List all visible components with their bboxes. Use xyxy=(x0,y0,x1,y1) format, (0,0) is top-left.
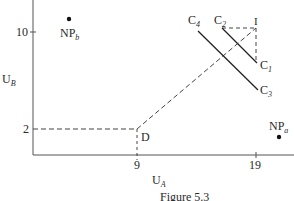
x-axis-label: UA xyxy=(152,174,166,191)
figure-caption: Figure 5.3 xyxy=(160,191,209,201)
line-c2-c1 xyxy=(222,28,257,63)
y-tick-label-10: 10 xyxy=(16,26,28,38)
point-label-d: D xyxy=(141,131,150,143)
point-label-np-b: NPb xyxy=(60,27,79,44)
curve-label-c2: C2 xyxy=(214,14,226,31)
point-label-np-a: NPa xyxy=(269,120,288,137)
y-axis-label: UB xyxy=(2,73,16,90)
point-label-i: I xyxy=(254,15,258,27)
dashed-line-d-to-i xyxy=(137,28,256,129)
line-c4-c3 xyxy=(198,31,258,90)
x-tick-label-19: 19 xyxy=(249,159,261,171)
curve-label-c4: C4 xyxy=(188,14,200,31)
np-b-dot xyxy=(67,17,71,21)
curve-label-c3: C3 xyxy=(260,84,272,101)
x-tick-label-9: 9 xyxy=(134,159,140,171)
y-tick-label-2: 2 xyxy=(23,123,29,135)
curve-label-c1: C1 xyxy=(260,59,272,76)
